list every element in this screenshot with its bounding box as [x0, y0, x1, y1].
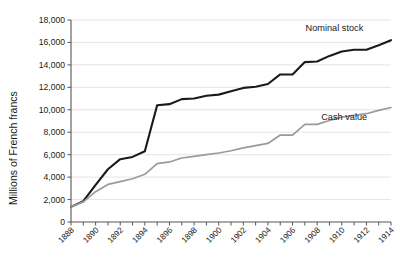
y-axis-title-text: Millions of French francs — [7, 91, 19, 205]
y-axis-title: Millions of French francs — [7, 91, 19, 205]
line-chart: 02,0004,0006,0008,00010,00012,00014,0001… — [0, 0, 405, 267]
y-tick-label: 4,000 — [43, 172, 65, 182]
y-tick-label: 2,000 — [43, 195, 65, 205]
y-tick-label: 10,000 — [39, 105, 66, 115]
series-label-cash-value: Cash value — [321, 112, 367, 122]
y-tick-label: 18,000 — [39, 15, 66, 25]
y-tick-label: 12,000 — [39, 82, 66, 92]
y-tick-label: 6,000 — [43, 150, 65, 160]
y-tick-label: 8,000 — [43, 127, 65, 137]
y-tick-label: 16,000 — [39, 37, 66, 47]
y-tick-label: 14,000 — [39, 60, 66, 70]
chart-figure: 02,0004,0006,0008,00010,00012,00014,0001… — [0, 0, 405, 267]
series-label-nominal-stock: Nominal stock — [306, 23, 364, 33]
y-tick-label: 0 — [60, 217, 65, 227]
